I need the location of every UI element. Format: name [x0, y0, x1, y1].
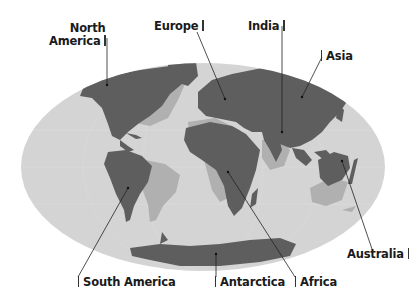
tick-mark [215, 276, 216, 287]
label-australia: Australia [347, 248, 409, 261]
label-india: India [248, 20, 285, 33]
label-antarctica: Antarctica [215, 276, 285, 289]
tick-mark [321, 50, 322, 61]
label-europe: Europe [154, 20, 204, 33]
tick-mark [104, 35, 105, 46]
label-asia: Asia [321, 50, 353, 63]
tick-mark [295, 276, 296, 287]
label-africa: Africa [295, 276, 337, 289]
tick-mark [202, 20, 203, 31]
label-north-america: North America [49, 22, 106, 48]
label-south-america: South America [78, 276, 175, 289]
tick-mark [283, 20, 284, 31]
label-north-america-line2: America [49, 35, 106, 48]
tick-mark [78, 276, 79, 287]
